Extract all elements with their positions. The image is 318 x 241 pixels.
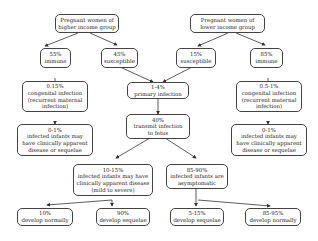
node-low-congenital-infection: 0.5-1% congenital infection (recurrent m…: [236, 81, 302, 112]
node-text: 55%: [50, 51, 62, 58]
node-text: 40%: [152, 117, 164, 124]
node-high-susceptible: 45% susceptible: [101, 48, 138, 68]
node-text: 5-15%: [188, 210, 205, 217]
node-lower-income-group: Pregnant women of lower income group: [190, 14, 265, 33]
node-text: transmit infection: [134, 123, 183, 130]
node-text: infection): [42, 103, 68, 110]
node-text: congenital infection: [242, 90, 296, 97]
node-text: 85%: [261, 51, 273, 58]
node-apparent-develop-sequelae: 90% develop sequelae: [96, 208, 150, 226]
node-high-congenital-infection: 0.15% congenital infection (recurrent ma…: [22, 81, 88, 112]
node-text: 45%: [114, 51, 126, 58]
node-text: immune: [255, 58, 277, 65]
node-text: 85-90%: [187, 167, 208, 174]
node-text: infected infants may have: [78, 173, 148, 180]
node-text: 0.15%: [46, 83, 63, 90]
node-text: infected infants may: [27, 133, 83, 140]
node-asymptomatic: 85-90% infected infants are asymptomatic: [166, 164, 228, 189]
node-text: 0-1%: [262, 127, 276, 134]
node-text: disease or sequelae: [242, 147, 296, 154]
node-low-immune: 85% immune: [250, 48, 283, 68]
node-text: 85-95%: [263, 210, 284, 217]
node-text: infected infants are: [170, 173, 223, 180]
node-text: infection): [256, 103, 282, 110]
node-asymptomatic-develop-sequelae: 5-15% develop sequelae: [170, 208, 224, 226]
node-text: susceptible: [181, 58, 212, 65]
node-text: 10%: [39, 210, 51, 217]
node-text: congenital infection: [28, 90, 82, 97]
node-primary-infection: 1-4% primary infection: [127, 82, 189, 99]
node-text: 1-4%: [151, 84, 165, 91]
node-high-immune: 55% immune: [40, 48, 71, 68]
node-text: develop normally: [249, 217, 296, 224]
node-text: 0.5-1%: [260, 83, 279, 90]
node-low-susceptible: 15% susceptible: [176, 48, 216, 68]
node-text: disease or sequelae: [28, 147, 82, 154]
node-higher-income-group: Pregnant women of higher income group: [55, 14, 119, 33]
node-text: immune: [44, 58, 66, 65]
node-text: higher income group: [58, 24, 115, 31]
node-high-infected-infants: 0-1% infected infants may have clinicall…: [17, 124, 93, 156]
node-text: to fetus: [148, 130, 169, 137]
node-text: develop sequelae: [173, 217, 220, 224]
node-text: clinically apparent disease: [77, 180, 150, 187]
node-text: asymptomatic: [178, 180, 216, 187]
node-text: Pregnant women of: [201, 17, 254, 24]
node-text: susceptible: [104, 58, 135, 65]
node-text: 0-1%: [48, 127, 62, 134]
node-text: (mild to severe): [91, 187, 134, 194]
node-low-infected-infants: 0-1% infected infants may have clinicall…: [231, 124, 307, 156]
node-text: have clinically apparent: [22, 140, 87, 147]
node-text: infected infants may: [241, 133, 297, 140]
node-asymptomatic-develop-normally: 85-95% develop normally: [245, 208, 301, 226]
node-text: develop normally: [21, 217, 68, 224]
node-text: 90%: [117, 210, 129, 217]
node-text: (recurrent maternal: [242, 97, 297, 104]
node-text: have clinically apparent: [236, 140, 301, 147]
node-text: 10-15%: [103, 167, 124, 174]
node-text: develop sequelae: [99, 217, 146, 224]
node-text: primary infection: [134, 91, 181, 98]
node-clinically-apparent: 10-15% infected infants may have clinica…: [73, 164, 153, 196]
node-text: 15%: [190, 51, 202, 58]
node-apparent-develop-normally: 10% develop normally: [17, 208, 73, 226]
node-text: lower income group: [200, 24, 255, 31]
node-text: Pregnant women of: [60, 17, 113, 24]
node-transmit-to-fetus: 40% transmit infection to fetus: [126, 114, 190, 139]
node-text: (recurrent maternal: [28, 97, 83, 104]
